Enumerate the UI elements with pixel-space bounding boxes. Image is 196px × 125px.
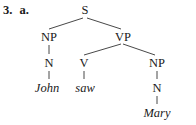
word-john: John (35, 81, 59, 95)
node-n-subject: N (44, 56, 53, 70)
node-n-object: N (152, 81, 161, 95)
edge-s-vp (87, 18, 121, 29)
word-saw: saw (75, 81, 94, 95)
node-v: V (79, 56, 88, 70)
edge-vp-v (84, 44, 121, 55)
node-vp: VP (115, 30, 131, 44)
node-np-subject: NP (41, 30, 57, 44)
edge-vp-np (123, 44, 155, 55)
edge-s-np (49, 18, 83, 29)
word-mary: Mary (143, 106, 170, 120)
node-s: S (82, 3, 89, 17)
node-np-object: NP (149, 56, 165, 70)
